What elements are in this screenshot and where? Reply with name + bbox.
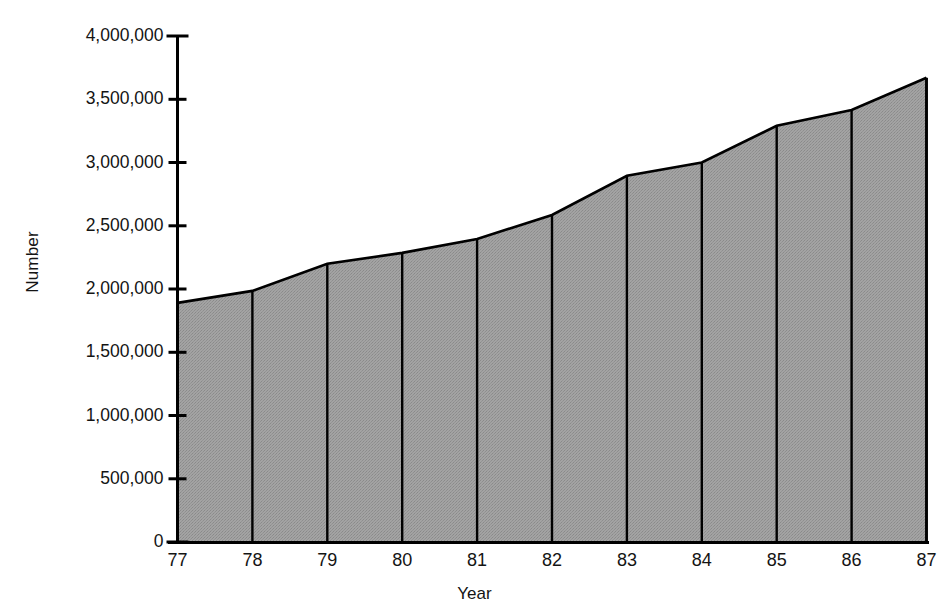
y-axis-tick-label: 2,500,000 <box>14 215 164 236</box>
x-axis-tick-label: 84 <box>672 550 732 571</box>
y-axis-tick-label: 0 <box>14 531 164 552</box>
x-axis-tick-label: 83 <box>597 550 657 571</box>
x-axis-tick-label: 86 <box>822 550 882 571</box>
y-axis-tick-label: 2,000,000 <box>14 278 164 299</box>
x-axis-tick-label: 78 <box>222 550 282 571</box>
x-axis-tick-label: 87 <box>897 550 949 571</box>
chart-figure: Number Year 0500,0001,000,0001,500,0002,… <box>0 0 949 616</box>
x-axis-tick-label: 81 <box>447 550 507 571</box>
y-axis-tick-label: 500,000 <box>14 468 164 489</box>
y-axis-tick-label: 1,000,000 <box>14 405 164 426</box>
x-axis-tick-label: 82 <box>522 550 582 571</box>
x-axis-tick-label: 80 <box>372 550 432 571</box>
x-axis-tick-label: 79 <box>297 550 357 571</box>
y-axis-tick-label: 3,500,000 <box>14 88 164 109</box>
y-axis-tick-label: 4,000,000 <box>14 25 164 46</box>
x-axis-tick-label: 85 <box>747 550 807 571</box>
x-axis-tick-label: 77 <box>148 550 208 571</box>
y-axis-tick-label: 1,500,000 <box>14 341 164 362</box>
y-axis-tick-label: 3,000,000 <box>14 152 164 173</box>
